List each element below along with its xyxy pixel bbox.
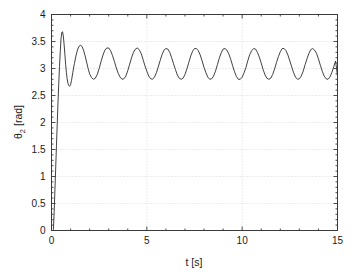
x-tick-label: 5 bbox=[144, 235, 150, 246]
y-axis-title-unit: [rad] bbox=[12, 105, 24, 129]
y-tick-label: 2.5 bbox=[32, 90, 46, 101]
chart-figure: 051015 00.511.522.533.54 t [s] θ2 [rad] bbox=[0, 0, 356, 275]
theta2-line-chart: 051015 00.511.522.533.54 t [s] θ2 [rad] bbox=[0, 0, 356, 275]
y-tick-label: 1 bbox=[40, 171, 46, 182]
y-tick-label: 0.5 bbox=[32, 198, 46, 209]
x-axis-title: t [s] bbox=[186, 256, 203, 268]
y-tick-label: 1.5 bbox=[32, 144, 46, 155]
x-tick-label: 0 bbox=[49, 235, 55, 246]
y-tick-label: 4 bbox=[40, 9, 46, 20]
y-tick-label: 2 bbox=[40, 117, 46, 128]
x-tick-label: 10 bbox=[237, 235, 249, 246]
x-tick-label: 15 bbox=[332, 235, 344, 246]
y-tick-label: 3.5 bbox=[32, 36, 46, 47]
y-tick-label: 0 bbox=[40, 225, 46, 236]
y-tick-label: 3 bbox=[40, 63, 46, 74]
